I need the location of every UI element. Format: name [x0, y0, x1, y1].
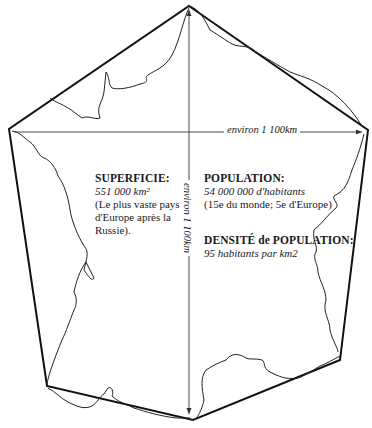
densite-block: DENSITÉ de POPULATION: 95 habitants par … [204, 234, 354, 260]
horizontal-dimension-label: environ 1 100km [224, 124, 300, 136]
france-hexagon-diagram: environ 1 100km environ 1 100km SUPERFIC… [0, 0, 372, 428]
superficie-block: SUPERFICIE: 551 000 km² (Le plus vaste p… [95, 172, 180, 237]
superficie-note-line-3: Russie). [95, 224, 180, 237]
superficie-value: 551 000 km² [95, 185, 180, 198]
superficie-note-line-1: (Le plus vaste pays [95, 198, 180, 211]
densite-heading-part2: de [255, 234, 273, 246]
population-value: 54 000 000 d'habitants [204, 185, 332, 198]
densite-heading-part1: DENSITÉ [204, 234, 255, 246]
population-note: (15e du monde; 5e d'Europe) [204, 198, 332, 211]
densite-heading-part3: POPULATION: [273, 234, 354, 246]
population-heading: POPULATION: [204, 172, 332, 185]
densite-heading: DENSITÉ de POPULATION: [204, 234, 354, 247]
superficie-note-line-2: d'Europe après la [95, 211, 180, 224]
population-block: POPULATION: 54 000 000 d'habitants (15e … [204, 172, 332, 211]
vertical-dimension-label: environ 1 100km [181, 180, 193, 256]
superficie-heading: SUPERFICIE: [95, 172, 180, 185]
densite-value: 95 habitants par km2 [204, 247, 354, 260]
